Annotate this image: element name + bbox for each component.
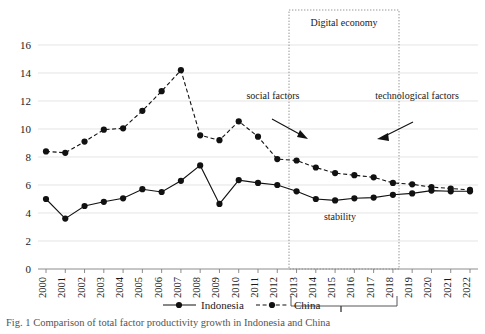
data-point [371,174,377,180]
data-point [351,195,357,201]
data-point [159,88,165,94]
x-tick-label-2000: 2000 [37,277,48,298]
data-point [197,162,203,168]
figure-caption: Fig. 1 Comparison of total factor produc… [6,318,330,328]
data-point [236,118,242,124]
x-tick-label-2009: 2009 [210,277,221,298]
y-tick-14: 14 [20,67,32,79]
y-tick-10: 10 [20,123,32,135]
data-point [332,197,338,203]
data-point [120,195,126,201]
x-tick-label-2016: 2016 [345,277,356,298]
data-point [178,178,184,184]
figure-container: 16 14 12 10 8 6 4 2 0 Digital economy so… [0,0,485,334]
data-point [293,157,299,163]
data-point [62,216,68,222]
data-point [81,203,87,209]
series-line-indonesia [46,165,470,218]
x-axis-tick-labels: 2000200120022003200420052006200720082009… [37,276,472,298]
x-tick-label-2013: 2013 [288,277,299,298]
x-tick-label-2004: 2004 [114,276,125,298]
line-chart: 16 14 12 10 8 6 4 2 0 Digital economy so… [0,0,485,334]
annotation-technological-factors: technological factors [375,90,459,101]
data-point [390,192,396,198]
data-point [43,196,49,202]
x-tick-label-2021: 2021 [442,277,453,298]
data-point [371,195,377,201]
data-point [81,139,87,145]
x-tick-label-2020: 2020 [422,277,433,298]
data-point [467,187,473,193]
legend-marker-china [269,302,275,308]
data-point [159,189,165,195]
figure-caption-band: Fig. 1 Comparison of total factor produc… [0,318,485,334]
data-point [313,164,319,170]
gridlines [38,45,478,241]
data-point [43,148,49,154]
legend: Indonesia China [163,299,320,311]
x-tick-label-2002: 2002 [76,277,87,298]
data-point [332,170,338,176]
x-tick-label-2018: 2018 [384,277,395,298]
annotation-stability: stability [324,211,356,222]
x-axis-ticks [46,269,470,273]
x-tick-label-2010: 2010 [230,277,241,298]
y-tick-0: 0 [26,263,32,275]
data-point [313,196,319,202]
data-point [409,181,415,187]
data-point [448,185,454,191]
annotation-social-factors: social factors [246,90,299,101]
data-point [216,137,222,143]
x-tick-label-2012: 2012 [268,277,279,298]
x-tick-label-2001: 2001 [56,277,67,298]
x-tick-label-2005: 2005 [133,277,144,298]
x-tick-label-2008: 2008 [191,277,202,298]
data-point [409,190,415,196]
data-point [101,199,107,205]
y-tick-16: 16 [20,39,32,51]
data-point [428,184,434,190]
data-point [101,127,107,133]
data-point [139,108,145,114]
data-point [351,172,357,178]
data-point [62,150,68,156]
x-tick-label-2003: 2003 [95,277,106,298]
data-point [274,182,280,188]
x-tick-label-2022: 2022 [461,277,472,298]
data-point [139,186,145,192]
y-axis-tick-labels: 16 14 12 10 8 6 4 2 0 [20,39,32,275]
y-tick-6: 6 [26,179,32,191]
technological-factors-arrow-icon [377,122,413,141]
annotation-digital-economy: Digital economy [311,17,378,28]
legend-label-indonesia: Indonesia [201,299,244,311]
data-point [255,180,261,186]
data-point [274,156,280,162]
x-tick-label-2015: 2015 [326,277,337,298]
series-line-china [46,70,470,190]
x-tick-label-2017: 2017 [365,277,376,298]
y-tick-12: 12 [20,95,31,107]
x-tick-label-2007: 2007 [172,277,183,298]
x-tick-label-2006: 2006 [153,277,164,298]
x-tick-label-2011: 2011 [249,277,260,298]
x-tick-label-2014: 2014 [307,276,318,298]
data-point [216,201,222,207]
data-point [255,134,261,140]
legend-marker-indonesia [176,302,182,308]
y-tick-8: 8 [26,151,32,163]
data-point [197,132,203,138]
x-tick-label-2019: 2019 [403,277,414,298]
data-point [390,180,396,186]
y-tick-2: 2 [26,235,32,247]
y-tick-4: 4 [26,207,32,219]
data-point [178,67,184,73]
data-point [120,125,126,131]
series-china [43,67,473,193]
legend-label-china: China [294,299,320,311]
data-point [293,188,299,194]
data-point [236,177,242,183]
